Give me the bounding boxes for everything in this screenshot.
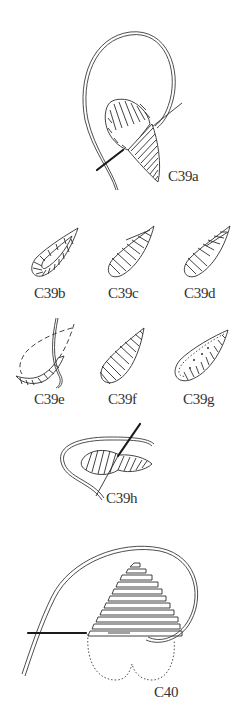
- stitch-diagram-canvas: C39a C39b C39c C39d C39e C39f C39g C39h …: [0, 0, 248, 714]
- c39e-illustration: [16, 318, 74, 388]
- label-c39b: C39b: [34, 285, 65, 302]
- c40-illustration: [22, 546, 198, 680]
- label-c39f: C39f: [108, 391, 137, 408]
- c39h-illustration: [61, 424, 154, 500]
- label-c39g: C39g: [183, 391, 214, 408]
- c39b-illustration: [32, 228, 78, 276]
- label-c39c: C39c: [108, 285, 138, 302]
- stitch-illustrations: [0, 0, 248, 714]
- c39a-illustration: [83, 32, 182, 190]
- label-c40: C40: [154, 684, 178, 701]
- label-c39h: C39h: [106, 490, 137, 507]
- label-c39a: C39a: [168, 168, 198, 185]
- label-c39e: C39e: [34, 391, 64, 408]
- c39d-illustration: [184, 226, 230, 277]
- c39g-illustration: [175, 330, 228, 381]
- c39c-illustration: [108, 226, 154, 277]
- c39f-illustration: [100, 328, 144, 384]
- label-c39d: C39d: [184, 285, 215, 302]
